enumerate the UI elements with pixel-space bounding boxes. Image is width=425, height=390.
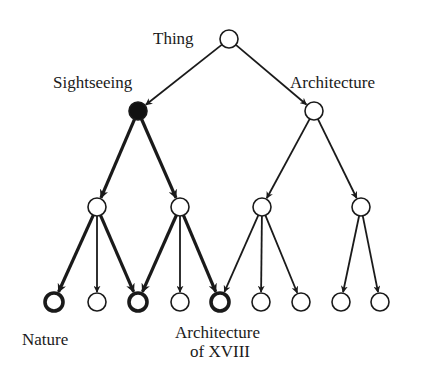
label-thing: Thing <box>153 29 194 48</box>
edge-s1-l1 <box>59 215 94 292</box>
node-l2 <box>88 293 106 311</box>
edge-thing-sightseeing <box>146 45 222 105</box>
node-s2 <box>171 198 189 216</box>
label-architecture-xviii-line2: of XVIII <box>190 342 250 361</box>
edge-a2-l9 <box>363 216 378 292</box>
node-l5 <box>211 293 229 311</box>
edge-a1-l6 <box>261 216 262 292</box>
edge-a1-l5 <box>224 215 258 292</box>
label-architecture: Architecture <box>290 73 375 92</box>
edge-a2-l8 <box>343 216 359 292</box>
label-sightseeing: Sightseeing <box>53 73 133 92</box>
edge-sightseeing-s2 <box>142 119 176 198</box>
node-l9 <box>371 293 389 311</box>
edge-s2-l3 <box>142 215 176 292</box>
edge-architecture-a2 <box>318 119 357 198</box>
node-l4 <box>171 293 189 311</box>
node-s1 <box>88 198 106 216</box>
node-l3 <box>129 293 147 311</box>
node-a1 <box>253 198 271 216</box>
label-nature: Nature <box>22 330 68 349</box>
node-thing <box>220 30 238 48</box>
label-architecture-xviii-line1: Architecture <box>175 323 260 342</box>
edge-sightseeing-s1 <box>101 119 135 198</box>
tree-diagram: Thing Sightseeing Architecture Nature Ar… <box>0 0 425 390</box>
node-a2 <box>352 198 370 216</box>
edge-s1-l3 <box>101 215 134 292</box>
node-l1 <box>45 293 63 311</box>
edge-architecture-a1 <box>267 119 310 198</box>
node-sightseeing <box>129 102 147 120</box>
node-l6 <box>252 293 270 311</box>
node-l7 <box>292 293 310 311</box>
node-architecture <box>305 102 323 120</box>
edge-a1-l7 <box>265 215 297 292</box>
edge-s2-l5 <box>183 215 215 292</box>
node-l8 <box>332 293 350 311</box>
